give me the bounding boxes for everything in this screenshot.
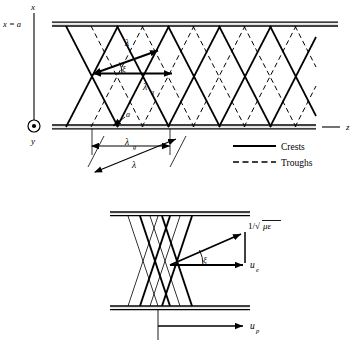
- lower-panel-rays: [128, 216, 192, 306]
- energy-velocity-label-group: u e: [250, 260, 259, 273]
- wall-position-label: x = a: [2, 19, 21, 29]
- phase-velocity-vector: [158, 310, 243, 340]
- x-axis-label: x: [30, 2, 35, 12]
- lower-panel-lower-wall: [110, 306, 250, 310]
- waveguide-figure-svg: x x = a y z: [0, 0, 361, 348]
- lambda-g-label: λ: [142, 82, 147, 92]
- phase-velocity-label: u: [250, 321, 255, 331]
- lambda-g-subscript: g: [151, 88, 155, 95]
- light-speed-radicand: με: [262, 221, 272, 231]
- lambda-dim-label: λ: [131, 160, 136, 170]
- legend-item-troughs: Troughs: [233, 158, 313, 168]
- light-speed-label: 1/√: [248, 221, 260, 231]
- lambda-g-dimension: [92, 129, 170, 155]
- lambda-dimension: [88, 136, 186, 172]
- spacing-a-label: a: [126, 110, 130, 119]
- y-axis-icon: [28, 120, 40, 132]
- y-axis-label: y: [30, 136, 35, 146]
- energy-velocity-label: u: [250, 260, 255, 270]
- legend-label-crests: Crests: [281, 142, 305, 152]
- energy-velocity-subscript: e: [256, 266, 259, 273]
- phase-velocity-label-group: u p: [250, 321, 260, 334]
- phase-velocity-subscript: p: [255, 327, 260, 334]
- lambda-label: λ: [124, 38, 129, 48]
- lower-xi-angle-label: ξ: [203, 255, 207, 265]
- figure-root: x x = a y z: [0, 0, 361, 348]
- lower-panel-upper-wall: [110, 212, 250, 216]
- upper-waveguide-wall: [52, 22, 338, 26]
- xi-angle-label: ξ: [122, 64, 126, 74]
- legend-item-crests: Crests: [233, 142, 305, 152]
- light-speed-label-group: 1/√ με: [248, 221, 281, 232]
- lambda-g-dim-label: λ: [124, 137, 129, 147]
- legend-label-troughs: Troughs: [281, 158, 313, 168]
- z-axis-label: z: [345, 122, 350, 132]
- legend: Crests Troughs: [233, 142, 313, 168]
